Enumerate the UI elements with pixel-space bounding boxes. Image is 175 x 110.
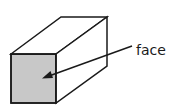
face-label: face (136, 42, 166, 58)
front-face (11, 54, 56, 103)
prism-diagram: face (0, 0, 175, 110)
